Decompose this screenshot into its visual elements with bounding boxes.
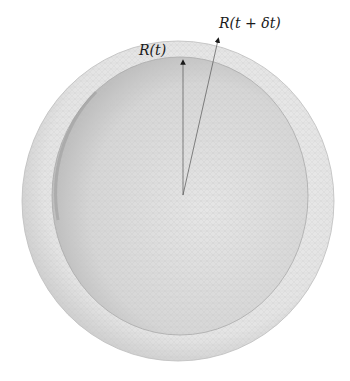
inner-radius-label: R(t): [139, 42, 166, 58]
inner-sphere: [52, 57, 308, 335]
expanding-sphere-diagram: [0, 0, 350, 381]
outer-radius-label: R(t + δt): [219, 15, 281, 31]
